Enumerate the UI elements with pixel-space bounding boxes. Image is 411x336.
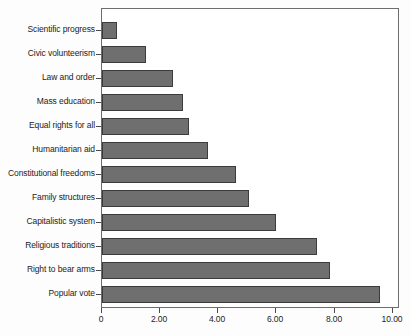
bar bbox=[102, 190, 249, 207]
category-label: Capitalistic system bbox=[27, 213, 95, 230]
category-label: Mass education bbox=[37, 93, 95, 110]
x-axis-tick bbox=[392, 308, 393, 313]
category-label: Equal rights for all bbox=[29, 117, 95, 134]
x-axis-tick bbox=[159, 308, 160, 313]
bar bbox=[102, 166, 236, 183]
x-axis-label: 2.00 bbox=[151, 314, 167, 324]
category-label: Right to bear arms bbox=[27, 261, 95, 278]
category-label: Humanitarian aid bbox=[32, 141, 95, 158]
bar bbox=[102, 70, 173, 87]
bar bbox=[102, 262, 330, 279]
x-axis-label: 6.00 bbox=[267, 314, 283, 324]
bar bbox=[102, 142, 208, 159]
bar bbox=[102, 118, 189, 135]
bar bbox=[102, 46, 146, 63]
x-axis-tick bbox=[101, 308, 102, 313]
x-axis-label: 10.00 bbox=[382, 314, 403, 324]
x-axis-tick bbox=[334, 308, 335, 313]
bar bbox=[102, 94, 183, 111]
plot-area bbox=[101, 8, 399, 308]
category-label: Religious traditions bbox=[25, 237, 95, 254]
category-label: Scientific progress bbox=[27, 21, 95, 38]
bar bbox=[102, 286, 380, 303]
bar-chart: Scientific progressCivic volunteerismLaw… bbox=[0, 0, 411, 336]
x-axis-label: 0 bbox=[99, 314, 104, 324]
x-axis-label: 8.00 bbox=[326, 314, 342, 324]
bar bbox=[102, 22, 117, 39]
x-axis-label: 4.00 bbox=[209, 314, 225, 324]
category-label: Law and order bbox=[42, 69, 95, 86]
x-axis-tick bbox=[275, 308, 276, 313]
bar bbox=[102, 238, 317, 255]
x-axis-tick bbox=[217, 308, 218, 313]
category-label: Family structures bbox=[32, 189, 95, 206]
category-label: Civic volunteerism bbox=[28, 45, 95, 62]
category-label: Popular vote bbox=[48, 285, 95, 302]
bar bbox=[102, 214, 276, 231]
category-label: Constitutional freedoms bbox=[8, 165, 95, 182]
